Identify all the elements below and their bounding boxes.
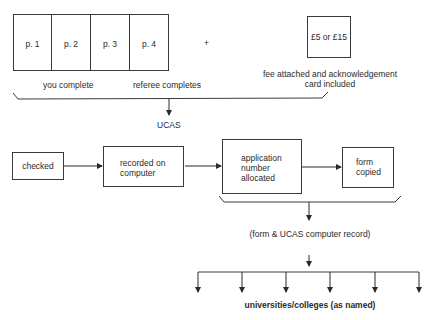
step-recorded-line2: computer [120,168,155,178]
record-label: (form & UCAS computer record) [230,229,390,239]
form-page-1: p. 1 [13,14,52,71]
fee-amount: £5 or £15 [308,32,350,42]
step-application-line2: number [241,163,270,173]
you-complete-caption: you complete [43,80,94,90]
form-page-4: p. 4 [129,14,169,71]
fee-caption-line1: fee attached and acknowledgement [250,69,410,79]
fee-box: £5 or £15 [307,16,351,58]
plus-sign: + [204,38,209,48]
fee-caption-line2: card included [250,79,410,89]
form-page-3: p. 3 [90,14,130,71]
step-form-copied-line1: form [356,157,373,167]
step-recorded: recorded on computer [103,146,184,187]
step-application-number: application number allocated [222,139,302,194]
form-page-3-label: p. 3 [91,39,129,49]
form-page-2: p. 2 [51,14,91,71]
step-form-copied-line2: copied [356,167,381,177]
step-checked-label: checked [13,161,63,171]
step-form-copied: form copied [342,147,394,188]
referee-completes-caption: referee completes [133,80,201,90]
ucas-label: UCAS [157,120,181,130]
step-recorded-line1: recorded on [120,158,165,168]
step-checked: checked [12,152,64,180]
step-application-line1: application [241,153,282,163]
form-page-4-label: p. 4 [130,39,168,49]
form-page-2-label: p. 2 [52,39,90,49]
form-page-1-label: p. 1 [14,39,51,49]
destination-label: universities/colleges (as named) [220,300,400,310]
step-application-line3: allocated [241,173,275,183]
